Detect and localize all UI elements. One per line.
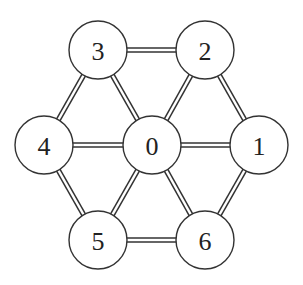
node-2: 2 — [176, 21, 234, 79]
node-label: 6 — [199, 227, 212, 256]
node-3: 3 — [69, 21, 127, 79]
node-label: 3 — [92, 37, 105, 66]
node-label: 2 — [199, 37, 212, 66]
node-5: 5 — [69, 211, 127, 269]
node-label: 5 — [92, 227, 105, 256]
node-label: 0 — [146, 132, 159, 161]
hexagonal-graph-diagram: 0123456 — [0, 0, 303, 285]
node-4: 4 — [15, 116, 73, 174]
nodes: 0123456 — [15, 21, 288, 269]
node-label: 4 — [38, 132, 51, 161]
node-6: 6 — [176, 211, 234, 269]
node-1: 1 — [230, 116, 288, 174]
node-0: 0 — [123, 116, 181, 174]
node-label: 1 — [253, 132, 266, 161]
